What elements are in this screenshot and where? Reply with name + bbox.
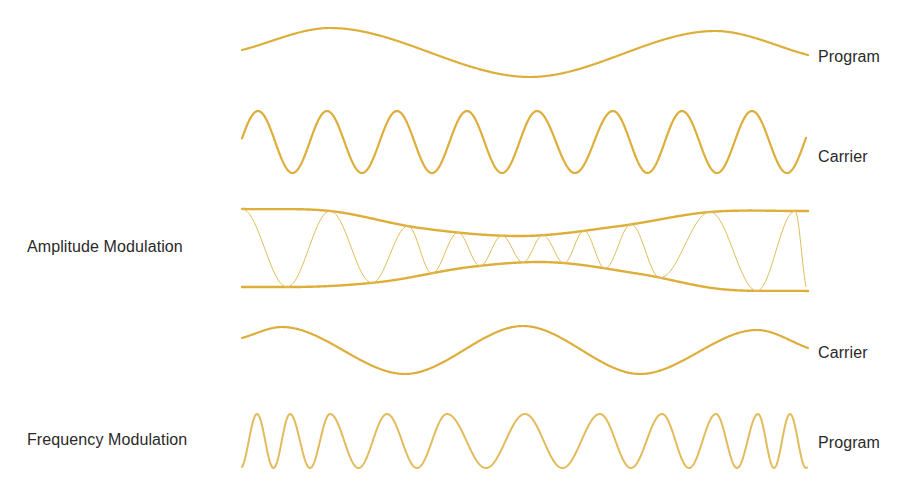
fm-carrier-wave [242,326,808,374]
carrier-label: Carrier [818,149,868,165]
fm-program-label: Program [818,435,880,451]
carrier-wave [242,111,806,173]
fm-carrier-label: Carrier [818,345,868,361]
fm-modulated-wave [242,414,807,468]
amplitude-modulation-label: Amplitude Modulation [27,239,183,255]
am-envelope-upper [242,209,808,236]
program-wave [242,28,808,77]
frequency-modulation-label: Frequency Modulation [27,432,187,448]
am-modulated-carrier [242,209,806,291]
program-label: Program [818,49,880,65]
am-envelope-lower [242,262,808,291]
